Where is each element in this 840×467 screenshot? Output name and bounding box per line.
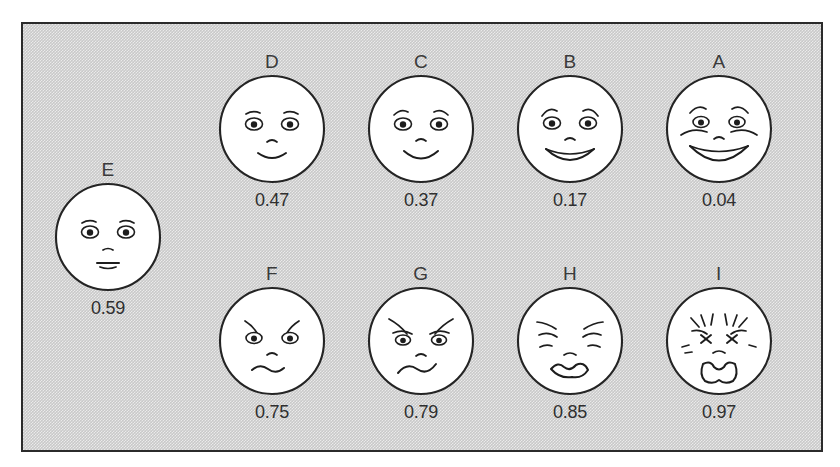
face-letter-I: I <box>657 264 781 285</box>
face-cell-C: C 0.37 <box>359 52 483 210</box>
face-value-E: 0.59 <box>46 298 170 318</box>
face-value-I: 0.97 <box>657 402 781 422</box>
face-cell-B: B 0.17 <box>508 52 632 210</box>
face-letter-E: E <box>46 160 170 181</box>
face-letter-B: B <box>508 52 632 73</box>
face-letter-D: D <box>210 52 334 73</box>
face-cell-E: E 0.59 <box>46 160 170 318</box>
face-value-B: 0.17 <box>508 190 632 210</box>
face-value-D: 0.47 <box>210 190 334 210</box>
face-cell-I: I <box>657 264 781 422</box>
face-drawing-I <box>663 285 775 397</box>
face-letter-H: H <box>508 264 632 285</box>
face-drawing-A <box>663 73 775 185</box>
face-drawing-C <box>365 73 477 185</box>
face-drawing-E <box>52 181 164 293</box>
face-letter-F: F <box>210 264 334 285</box>
face-letter-A: A <box>657 52 781 73</box>
face-value-C: 0.37 <box>359 190 483 210</box>
face-drawing-B <box>514 73 626 185</box>
face-cell-A: A 0.04 <box>657 52 781 210</box>
face-value-F: 0.75 <box>210 402 334 422</box>
face-value-A: 0.04 <box>657 190 781 210</box>
face-drawing-D <box>216 73 328 185</box>
face-letter-G: G <box>359 264 483 285</box>
face-value-H: 0.85 <box>508 402 632 422</box>
face-cell-D: D 0.47 <box>210 52 334 210</box>
face-cell-G: G 0.79 <box>359 264 483 422</box>
face-drawing-F <box>216 285 328 397</box>
face-drawing-H <box>514 285 626 397</box>
face-letter-C: C <box>359 52 483 73</box>
figure-panel: E 0.59 D <box>21 22 823 452</box>
face-drawing-G <box>365 285 477 397</box>
face-value-G: 0.79 <box>359 402 483 422</box>
face-cell-H: H 0.85 <box>508 264 632 422</box>
faces-pain-scale-figure: E 0.59 D <box>0 0 840 467</box>
face-cell-F: F 0.75 <box>210 264 334 422</box>
